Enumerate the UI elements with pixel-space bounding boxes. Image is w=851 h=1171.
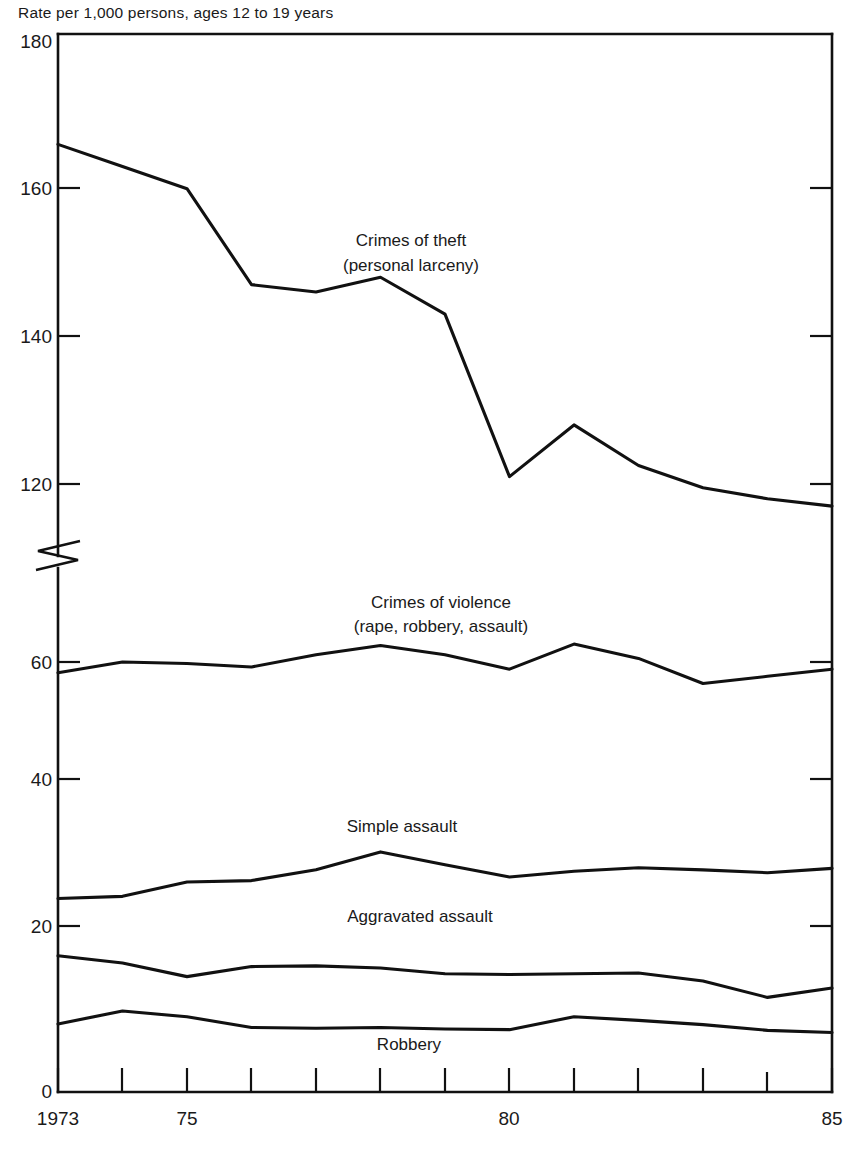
annotation-crimes-of-violence-line1: Crimes of violence <box>371 593 511 612</box>
series-line-robbery <box>58 1011 832 1033</box>
y-tick-label-140: 140 <box>20 326 52 347</box>
x-tick-label-group: 1973 75 80 85 <box>37 1108 843 1129</box>
x-tick-group <box>58 1068 832 1092</box>
line-chart-plot: 180 160 140 120 60 40 20 0 1973 7 <box>0 0 851 1171</box>
x-tick-label-1973: 1973 <box>37 1108 79 1129</box>
series-group <box>58 144 832 1032</box>
annotation-robbery: Robbery <box>377 1035 442 1054</box>
y-tick-label-60: 60 <box>31 652 52 673</box>
annotation-crimes-of-theft-line2: (personal larceny) <box>343 256 479 275</box>
series-line-crimes-of-theft <box>58 144 832 506</box>
y-tick-label-180: 180 <box>20 31 52 52</box>
y-tick-label-0: 0 <box>41 1081 52 1102</box>
annotation-crimes-of-violence-line2: (rape, robbery, assault) <box>354 617 528 636</box>
series-line-simple-assault <box>58 852 832 899</box>
y-tick-group <box>58 41 832 926</box>
annotation-aggravated-assault: Aggravated assault <box>347 907 493 926</box>
annotation-simple-assault: Simple assault <box>347 817 458 836</box>
series-line-crimes-of-violence <box>58 644 832 683</box>
y-tick-label-160: 160 <box>20 178 52 199</box>
axis-group <box>36 34 832 1092</box>
y-tick-label-120: 120 <box>20 474 52 495</box>
series-line-aggravated-assault <box>58 956 832 998</box>
chart-figure: Rate per 1,000 persons, ages 12 to 19 ye… <box>0 0 851 1171</box>
y-tick-label-20: 20 <box>31 916 52 937</box>
x-tick-label-80: 80 <box>498 1108 519 1129</box>
x-tick-label-85: 85 <box>821 1108 842 1129</box>
x-tick-label-75: 75 <box>176 1108 197 1129</box>
y-tick-label-40: 40 <box>31 769 52 790</box>
y-axis-break-icon <box>36 541 80 570</box>
series-annotation-group: Crimes of theft (personal larceny) Crime… <box>343 231 528 1054</box>
annotation-crimes-of-theft-line1: Crimes of theft <box>356 231 467 250</box>
